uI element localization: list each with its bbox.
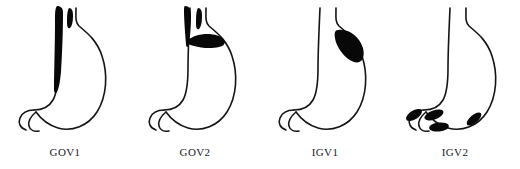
igv1-greater-curvature	[296, 8, 366, 129]
panel-gov1: GOV1	[0, 0, 130, 169]
varices-classification-figure: GOV1 GOV2	[0, 0, 520, 169]
panel-label-igv2: IGV2	[390, 146, 520, 158]
gov2-illustration	[130, 0, 260, 145]
igv1-lesser-curvature	[294, 8, 320, 110]
igv1-fundal-varix	[335, 30, 364, 63]
panel-igv2: IGV2	[390, 0, 520, 169]
gov1-antrum-pylorus	[19, 110, 34, 130]
igv2-varix-antral-lower	[429, 121, 450, 132]
gov2-antrum-pylorus	[149, 110, 164, 130]
gov1-illustration	[0, 0, 130, 145]
igv2-illustration	[390, 0, 520, 145]
gov2-cardia-varix	[196, 8, 202, 29]
igv1-illustration	[260, 0, 390, 145]
panel-label-igv1: IGV1	[260, 146, 390, 158]
igv1-antrum-pylorus	[279, 110, 294, 130]
gov2-greater-curvature	[166, 8, 236, 129]
panel-label-gov2: GOV2	[130, 146, 260, 158]
panel-gov2: GOV2	[130, 0, 260, 169]
panel-label-gov1: GOV1	[0, 146, 130, 158]
panel-row: GOV1 GOV2	[0, 0, 520, 169]
igv2-varix-duodenal	[404, 106, 424, 123]
panel-igv1: IGV1	[260, 0, 390, 169]
gov1-cardia-varix	[67, 8, 73, 28]
igv2-lesser-curvature	[424, 8, 450, 110]
gov1-esophageal-varix	[54, 6, 63, 93]
